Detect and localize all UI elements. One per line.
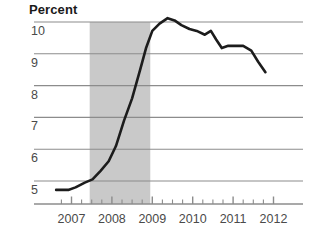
- plot-area: 1098765 200720082009201020112012: [0, 0, 311, 240]
- unemployment-rate-chart: Percent 1098765 200720082009201020112012: [0, 0, 311, 240]
- y-axis-tick-label: 10: [31, 25, 45, 38]
- shaded-recession-band: [90, 22, 151, 204]
- x-axis-tick-label: 2008: [92, 213, 132, 226]
- y-axis-tick-label: 5: [31, 184, 38, 197]
- data-line-group: [56, 18, 265, 190]
- series-line-unemployment-rate: [56, 18, 265, 190]
- y-axis-tick-label: 7: [31, 120, 38, 133]
- y-axis-tick-label: 9: [31, 57, 38, 70]
- x-axis-tick-label: 2007: [52, 213, 92, 226]
- gridlines: [34, 22, 303, 181]
- x-axis-tick-label: 2012: [254, 213, 294, 226]
- x-axis-tick-label: 2011: [213, 213, 253, 226]
- chart-svg: [0, 0, 311, 240]
- y-axis-tick-label: 6: [31, 152, 38, 165]
- x-axis-tick-label: 2009: [132, 213, 172, 226]
- y-axis-tick-label: 8: [31, 89, 38, 102]
- x-axis-tick-label: 2010: [173, 213, 213, 226]
